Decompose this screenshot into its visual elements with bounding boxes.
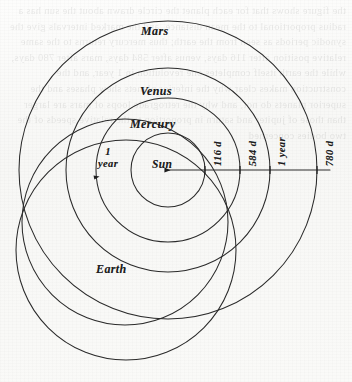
label-earth: Earth bbox=[96, 262, 127, 277]
offset-circle-earth-2 bbox=[16, 140, 236, 360]
offset-circle-earth-1 bbox=[22, 119, 228, 325]
label-sun: Sun bbox=[152, 158, 172, 170]
label-one-year-left: 1 year bbox=[98, 146, 118, 169]
orbit-diagram-svg bbox=[0, 0, 352, 382]
label-mercury-synodic-period: 116 d bbox=[212, 133, 223, 175]
label-venus-synodic-period: 584 d bbox=[247, 133, 258, 175]
figure-page: the figure shows that for each planet th… bbox=[0, 0, 352, 382]
label-venus: Venus bbox=[140, 84, 172, 99]
label-mercury: Mercury bbox=[130, 117, 175, 132]
label-earth-period: 1 year bbox=[276, 129, 287, 175]
label-one-year-left-line2: year bbox=[98, 158, 118, 170]
label-mars-synodic-period: 780 d bbox=[324, 133, 335, 175]
label-one-year-left-line1: 1 bbox=[98, 146, 118, 158]
label-mars: Mars bbox=[141, 24, 169, 39]
